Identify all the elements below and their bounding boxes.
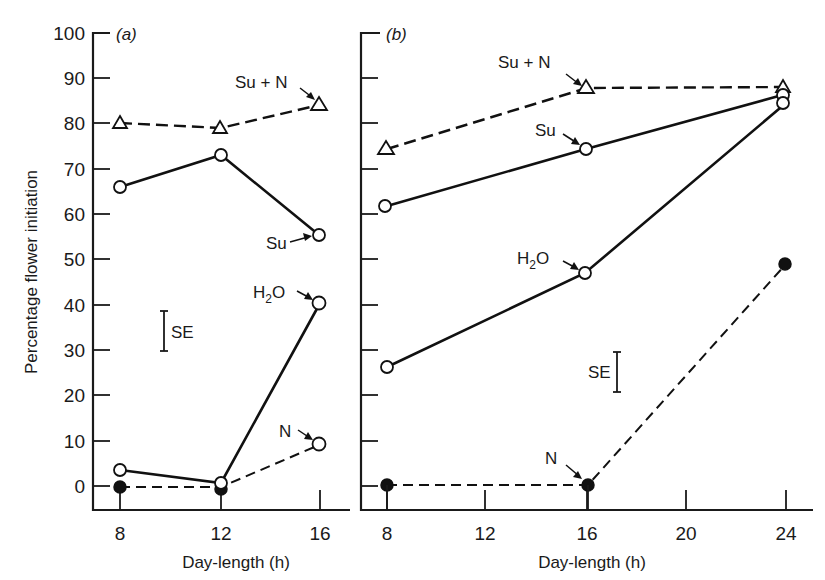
- panel-b-label-su: Su: [535, 121, 556, 140]
- panel-b-line-su-n: [387, 87, 786, 149]
- circle-marker: [215, 149, 227, 161]
- panel-b-x-axis-title: Day-length (h): [538, 553, 646, 572]
- panel-b-se-label: SE: [588, 363, 611, 382]
- y-tick-40: 40: [64, 295, 85, 316]
- y-tick-100: 100: [53, 23, 85, 44]
- panel-a-x-tick-16: 16: [309, 523, 330, 544]
- panel-a-label-su-n: Su + N: [235, 73, 287, 92]
- y-tick-60: 60: [64, 204, 85, 225]
- triangle-marker: [113, 116, 127, 128]
- y-tick-30: 30: [64, 340, 85, 361]
- y-tick-50: 50: [64, 249, 85, 270]
- circle-marker: [313, 438, 326, 451]
- circle-marker: [114, 464, 126, 476]
- panel-a-y-ticks: [93, 78, 110, 486]
- panel-b-markers: [378, 80, 791, 510]
- panel-a-markers: [113, 97, 327, 495]
- panel-b-x-tick-8: 8: [382, 523, 393, 544]
- panel-a-se-label: SE: [171, 323, 194, 342]
- panel-b-x-tick-20: 20: [675, 523, 696, 544]
- y-axis-title: Percentage flower initiation: [22, 170, 41, 374]
- y-tick-70: 70: [64, 159, 85, 180]
- filled-circle-marker: [114, 481, 126, 493]
- panel-a-line-h2o: [120, 305, 319, 483]
- circle-marker: [379, 200, 391, 212]
- panel-a-label-h2o: H2O: [253, 283, 285, 306]
- circle-marker: [215, 477, 227, 489]
- filled-circle-marker: [779, 258, 791, 270]
- arrowhead-icon: [303, 233, 312, 241]
- panel-a-x-tick-12: 12: [210, 523, 231, 544]
- y-tick-90: 90: [64, 68, 85, 89]
- triangle-marker: [578, 80, 594, 93]
- panel-a-label-n: N: [279, 422, 291, 441]
- panel-a-x-tick-8: 8: [115, 523, 126, 544]
- panel-b-label-su-n: Su + N: [498, 53, 550, 72]
- circle-marker: [313, 297, 326, 310]
- panel-a-label-su: Su: [266, 234, 287, 253]
- circle-marker: [381, 361, 393, 373]
- panel-a-x-axis-title: Day-length (h): [182, 553, 290, 572]
- panel-a: 100 90 80 70 60 50 40 30 20 10 0 8 12 16…: [53, 23, 350, 572]
- panel-a-se-bar: SE: [160, 311, 194, 351]
- panel-b-x-tick-24: 24: [775, 523, 797, 544]
- panel-a-label: (a): [116, 25, 137, 44]
- circle-marker: [579, 267, 591, 279]
- figure: Percentage flower initiation 100 90 80 7…: [0, 0, 825, 580]
- circle-marker: [580, 143, 592, 155]
- panel-b-y-ticks: [361, 78, 378, 486]
- y-tick-20: 20: [64, 385, 85, 406]
- panel-b-label-h2o: H2O: [517, 249, 549, 272]
- y-tick-labels: 100 90 80 70 60 50 40 30 20 10 0: [53, 23, 85, 497]
- panel-b-line-n: [387, 264, 786, 485]
- arrowhead-icon: [573, 78, 582, 86]
- panel-b-se-bar: SE: [588, 352, 621, 392]
- y-tick-0: 0: [74, 476, 85, 497]
- circle-marker: [114, 181, 126, 193]
- panel-b-x-tick-12: 12: [474, 523, 495, 544]
- panel-b: 8 12 16 20 24 Day-length (h) (b): [361, 25, 813, 572]
- arrowhead-icon: [571, 137, 580, 145]
- arrowhead-icon: [304, 432, 313, 440]
- panel-a-line-su: [120, 155, 319, 235]
- panel-b-label: (b): [386, 25, 407, 44]
- panel-b-label-n: N: [545, 449, 557, 468]
- y-tick-10: 10: [64, 431, 85, 452]
- y-tick-80: 80: [64, 113, 85, 134]
- circle-marker: [313, 229, 325, 241]
- panel-b-x-tick-16: 16: [576, 523, 597, 544]
- circle-marker: [777, 97, 789, 109]
